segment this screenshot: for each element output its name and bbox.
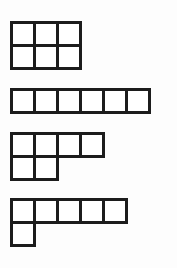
- polyomino-p-shape-4-2: [10, 132, 105, 181]
- polyomino-cell: [56, 44, 82, 70]
- polyomino-row: [10, 221, 128, 247]
- polyomino-cell: [33, 155, 59, 181]
- polyomino-rectangle-3x2: [10, 21, 82, 70]
- polyomino-row: [10, 155, 105, 181]
- polyomino-cell: [10, 221, 36, 247]
- polyomino-l-shape-5-1: [10, 198, 128, 247]
- polyomino-strip-6x1: [10, 88, 151, 114]
- polyomino-figure-sheet: [0, 0, 177, 268]
- polyomino-row: [10, 88, 151, 114]
- polyomino-cell: [125, 88, 151, 114]
- polyomino-cell: [79, 132, 105, 158]
- polyomino-row: [10, 44, 82, 70]
- polyomino-cell: [102, 198, 128, 224]
